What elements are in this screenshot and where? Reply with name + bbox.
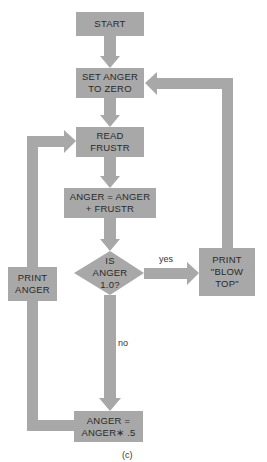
- add-label: ANGER = ANGER + FRUSTR: [64, 188, 156, 218]
- no-edge-label: no: [118, 338, 128, 348]
- yes-edge-label: yes: [159, 254, 173, 264]
- decision-label: IS ANGER 1.0?: [80, 251, 140, 295]
- read-frustr-label: READ FRUSTR: [76, 127, 144, 157]
- figure-caption: (c): [122, 450, 133, 460]
- print-anger-label: PRINT ANGER: [8, 267, 57, 301]
- start-label: START: [76, 12, 144, 36]
- halve-label: ANGER = ANGER∗ .5: [74, 411, 143, 442]
- set-anger-label: SET ANGER TO ZERO: [76, 68, 144, 98]
- print-blow-top-label: PRINT "BLOW TOP": [199, 248, 255, 296]
